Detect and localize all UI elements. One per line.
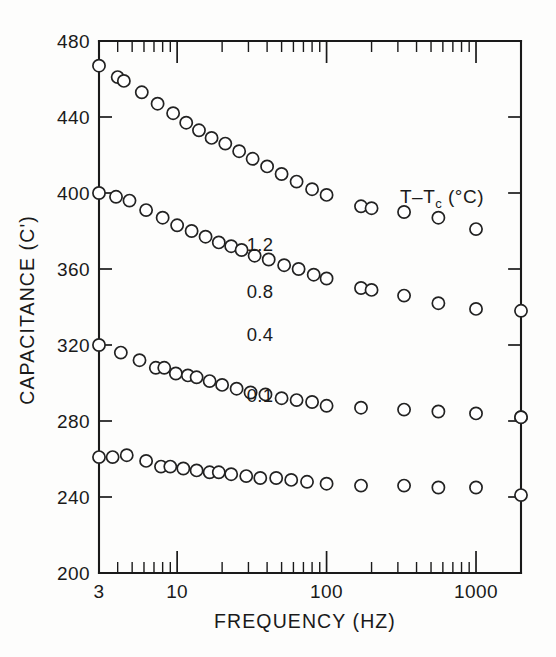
data-point [261, 160, 273, 172]
data-point [254, 472, 266, 484]
data-point [93, 60, 105, 72]
data-series-group [93, 60, 527, 502]
x-tick-label-1000: 1000 [454, 581, 498, 602]
data-point [158, 362, 170, 374]
data-point [285, 474, 297, 486]
data-point [270, 472, 282, 484]
data-point [290, 176, 302, 188]
y-tick-label-320: 320 [57, 335, 90, 356]
series-1.2 [93, 449, 527, 501]
data-point [275, 392, 287, 404]
x-tick-label-3: 3 [94, 581, 105, 602]
data-point [365, 202, 377, 214]
data-point [470, 223, 482, 235]
data-point [213, 466, 225, 478]
data-point [93, 451, 105, 463]
data-point [306, 183, 318, 195]
x-tick-label-100: 100 [310, 581, 343, 602]
y-tick-label-360: 360 [57, 259, 90, 280]
data-point [93, 339, 105, 351]
data-point [470, 481, 482, 493]
data-point [515, 411, 527, 423]
legend-entry-0.4: 0.4 [247, 324, 274, 345]
series-0.4 [93, 187, 527, 423]
data-point [115, 347, 127, 359]
data-point [216, 379, 228, 391]
data-point [432, 297, 444, 309]
data-point [470, 407, 482, 419]
axes-group [99, 41, 521, 573]
data-point [432, 405, 444, 417]
data-point [293, 263, 305, 275]
y-tick-label-280: 280 [57, 411, 90, 432]
data-point [306, 396, 318, 408]
data-point [432, 212, 444, 224]
data-point [470, 303, 482, 315]
data-point [263, 253, 275, 265]
data-point [290, 394, 302, 406]
capacitance-vs-frequency-chart: 200240280320360400440480 3101001000 T–Tc… [0, 0, 556, 657]
data-point [515, 489, 527, 501]
data-point [171, 219, 183, 231]
data-point [180, 117, 192, 129]
data-point [199, 231, 211, 243]
data-point [191, 371, 203, 383]
data-point [247, 153, 259, 165]
data-point [136, 86, 148, 98]
data-point [320, 189, 332, 201]
legend-entry-1.2: 1.2 [247, 234, 274, 255]
x-axis-title: FREQUENCY (HZ) [214, 610, 396, 632]
data-point [157, 212, 169, 224]
legend-group: T–Tc (°C)0.10.40.81.2 [247, 186, 484, 406]
y-tick-label-240: 240 [57, 487, 90, 508]
legend-entry-0.8: 0.8 [247, 281, 274, 302]
data-point [355, 402, 367, 414]
data-point [140, 204, 152, 216]
y-tick-label-400: 400 [57, 183, 90, 204]
data-point [213, 236, 225, 248]
series-0.8 [93, 339, 527, 423]
data-point [167, 107, 179, 119]
legend-title: T–Tc (°C) [400, 186, 484, 211]
data-point [107, 451, 119, 463]
data-point [170, 367, 182, 379]
data-point [133, 354, 145, 366]
data-point [320, 478, 332, 490]
y-axis-title: CAPACITANCE (C') [16, 215, 38, 405]
data-point [140, 455, 152, 467]
data-point [177, 462, 189, 474]
data-point [398, 206, 410, 218]
data-point [123, 195, 135, 207]
data-point [308, 269, 320, 281]
data-point [240, 470, 252, 482]
data-point [365, 284, 377, 296]
data-point [110, 191, 122, 203]
x-tick-labels: 3101001000 [94, 581, 498, 602]
data-point [186, 225, 198, 237]
data-point [320, 400, 332, 412]
x-tick-label-10: 10 [166, 581, 188, 602]
data-point [398, 290, 410, 302]
data-point [164, 461, 176, 473]
data-point [118, 75, 130, 87]
data-point [275, 168, 287, 180]
y-tick-label-200: 200 [57, 563, 90, 584]
data-point [231, 383, 243, 395]
data-point [398, 404, 410, 416]
data-point [278, 259, 290, 271]
y-tick-label-440: 440 [57, 107, 90, 128]
data-point [205, 132, 217, 144]
data-point [93, 187, 105, 199]
data-point [320, 272, 332, 284]
data-point [204, 375, 216, 387]
data-point [233, 145, 245, 157]
data-point [398, 480, 410, 492]
y-tick-labels: 200240280320360400440480 [57, 31, 90, 584]
data-point [301, 476, 313, 488]
data-point [121, 449, 133, 461]
data-point [432, 481, 444, 493]
legend-entry-0.1: 0.1 [247, 385, 274, 406]
data-point [152, 98, 164, 110]
axis-ticks-group [99, 41, 521, 573]
data-point [191, 464, 203, 476]
